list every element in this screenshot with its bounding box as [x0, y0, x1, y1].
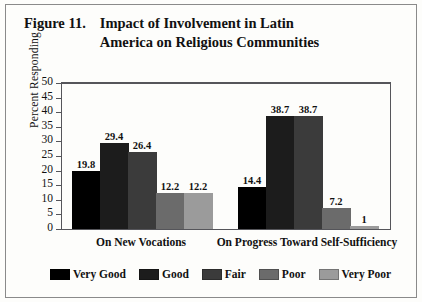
- y-axis-tick-label: 25: [13, 148, 53, 160]
- legend-label: Good: [162, 268, 189, 280]
- legend-swatch: [202, 269, 222, 280]
- bars-container: 19.829.426.412.212.214.438.738.77.21: [62, 84, 390, 229]
- legend-item: Very Poor: [319, 268, 392, 280]
- y-axis-tick-label: 5: [13, 206, 53, 218]
- bar-value-label: 26.4: [124, 140, 160, 151]
- bar: [184, 193, 213, 229]
- legend-swatch: [319, 269, 339, 280]
- bar-value-label: 1: [346, 214, 382, 225]
- bar: [100, 143, 129, 229]
- legend-swatch: [139, 269, 159, 280]
- plot-area: 19.829.426.412.212.214.438.738.77.21: [61, 82, 391, 230]
- figure-title: Figure 11. Impact of Involvement in Lati…: [24, 14, 394, 52]
- bar: [294, 116, 323, 229]
- bar-value-label: 12.2: [180, 181, 216, 192]
- chart-legend: Very GoodGoodFairPoorVery Poor: [50, 266, 400, 282]
- category-label: On Progress Toward Self-Sufficiency: [197, 236, 417, 248]
- figure-title-line-2: America on Religious Communities: [100, 34, 320, 50]
- bar: [156, 193, 185, 229]
- legend-label: Very Poor: [342, 268, 392, 280]
- y-axis-tick-label: 45: [13, 90, 53, 102]
- legend-swatch: [259, 269, 279, 280]
- category-labels: On New VocationsOn Progress Toward Self-…: [61, 236, 391, 252]
- figure-title-line-1: Impact of Involvement in Latin: [100, 15, 294, 31]
- bar: [350, 226, 379, 229]
- legend-item: Very Good: [50, 268, 126, 280]
- y-axis-tick-label: 15: [13, 177, 53, 189]
- bar-value-label: 19.8: [68, 159, 104, 170]
- bar: [72, 171, 101, 229]
- y-axis-tick-label: 30: [13, 133, 53, 145]
- bar: [266, 116, 295, 229]
- y-axis-tick-label: 20: [13, 163, 53, 175]
- legend-label: Very Good: [73, 268, 126, 280]
- y-axis-tick-label: 10: [13, 192, 53, 204]
- legend-item: Fair: [202, 268, 246, 280]
- legend-label: Fair: [225, 268, 246, 280]
- bar: [238, 187, 267, 229]
- figure-page: Figure 11. Impact of Involvement in Lati…: [0, 0, 422, 302]
- y-axis-tick-label: 35: [13, 119, 53, 131]
- legend-label: Poor: [282, 268, 306, 280]
- bar-value-label: 7.2: [318, 196, 354, 207]
- legend-item: Poor: [259, 268, 306, 280]
- legend-swatch: [50, 269, 70, 280]
- y-axis-tick-label: 0: [13, 221, 53, 233]
- y-axis-ticks: 05101520253035404550: [0, 82, 61, 230]
- bar-value-label: 14.4: [234, 175, 270, 186]
- y-axis-tick-label: 50: [13, 75, 53, 87]
- bar-value-label: 38.7: [290, 104, 326, 115]
- legend-item: Good: [139, 268, 189, 280]
- y-axis-tick-label: 40: [13, 104, 53, 116]
